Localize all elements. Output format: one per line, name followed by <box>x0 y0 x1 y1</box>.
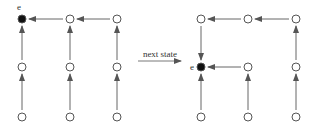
active-node <box>197 63 205 71</box>
state-transition-diagram: next state e e <box>0 0 315 128</box>
node <box>292 63 300 71</box>
active-node <box>18 15 26 23</box>
node <box>18 113 26 121</box>
transition-arrow: next state <box>138 49 181 61</box>
node <box>113 113 121 121</box>
left-state-graph <box>18 15 121 121</box>
transition-label: next state <box>143 49 177 59</box>
node <box>244 15 252 23</box>
node <box>197 113 205 121</box>
node <box>113 15 121 23</box>
node <box>66 15 74 23</box>
node <box>244 113 252 121</box>
node <box>197 15 205 23</box>
node <box>292 15 300 23</box>
node <box>113 63 121 71</box>
node <box>66 63 74 71</box>
node <box>292 113 300 121</box>
right-state-graph <box>197 15 300 121</box>
node <box>244 63 252 71</box>
left-node-label-e: e <box>17 2 21 12</box>
node <box>18 63 26 71</box>
node <box>66 113 74 121</box>
right-node-label-e: e <box>190 62 194 72</box>
